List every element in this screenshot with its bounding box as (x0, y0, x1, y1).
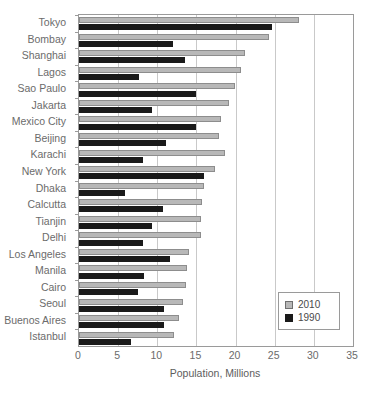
legend-swatch-1990-icon (285, 314, 293, 322)
bar-1990 (79, 91, 196, 97)
category-label: Calcutta (27, 196, 66, 213)
bar-1990 (79, 240, 143, 246)
x-tick-label: 10 (150, 349, 162, 361)
bar-2010 (79, 150, 225, 156)
category-label: Lagos (37, 64, 66, 81)
bar-1990 (79, 157, 143, 163)
bar-2010 (79, 282, 186, 288)
x-axis-tick-labels: 05101520253035 (78, 349, 352, 365)
category-axis-labels: TokyoBombayShanghaiLagosSao PauloJakarta… (0, 14, 70, 345)
bar-1990 (79, 306, 164, 312)
bar-2010 (79, 67, 241, 73)
category-label: Istanbul (29, 328, 66, 345)
bar-group (79, 32, 353, 49)
category-label: Mexico City (12, 113, 66, 130)
bar-group (79, 147, 353, 164)
category-label: Karachi (30, 146, 66, 163)
bar-1990 (79, 322, 164, 328)
bar-1990 (79, 289, 138, 295)
category-label: New York (22, 163, 66, 180)
category-label: Dhaka (36, 180, 66, 197)
population-bar-chart: TokyoBombayShanghaiLagosSao PauloJakarta… (0, 0, 374, 405)
bar-group (79, 131, 353, 148)
bar-group (79, 247, 353, 264)
x-axis-title: Population, Millions (78, 367, 352, 379)
bar-2010 (79, 133, 219, 139)
bar-group (79, 48, 353, 65)
bar-1990 (79, 223, 152, 229)
bar-2010 (79, 50, 245, 56)
bar-1990 (79, 173, 204, 179)
bar-2010 (79, 299, 183, 305)
bar-1990 (79, 41, 173, 47)
x-tick-label: 15 (190, 349, 202, 361)
bar-1990 (79, 256, 170, 262)
bar-group (79, 15, 353, 32)
category-label: Jakarta (32, 97, 66, 114)
category-label: Buenos Aires (4, 312, 66, 329)
bar-2010 (79, 199, 202, 205)
bar-2010 (79, 183, 204, 189)
bar-2010 (79, 166, 215, 172)
bar-1990 (79, 140, 166, 146)
bar-1990 (79, 273, 144, 279)
bar-group (79, 214, 353, 231)
x-tick-label: 5 (114, 349, 120, 361)
category-label: Tokyo (39, 14, 66, 31)
bar-2010 (79, 216, 201, 222)
bar-1990 (79, 74, 139, 80)
bar-1990 (79, 190, 125, 196)
bar-group (79, 114, 353, 131)
bar-2010 (79, 232, 201, 238)
bar-group (79, 329, 353, 346)
x-tick-label: 25 (268, 349, 280, 361)
bar-1990 (79, 339, 131, 345)
bar-group (79, 263, 353, 280)
bar-2010 (79, 116, 221, 122)
bar-2010 (79, 83, 235, 89)
x-tick-label: 30 (307, 349, 319, 361)
bar-group (79, 81, 353, 98)
category-label: Beijing (34, 130, 66, 147)
x-tick-label: 20 (229, 349, 241, 361)
bar-group (79, 98, 353, 115)
bar-2010 (79, 34, 269, 40)
x-tick-label: 35 (346, 349, 358, 361)
category-label: Cairo (41, 279, 66, 296)
bar-1990 (79, 57, 185, 63)
chart-legend: 2010 1990 (278, 292, 340, 330)
bar-2010 (79, 17, 299, 23)
category-label: Delhi (42, 229, 66, 246)
bar-1990 (79, 107, 152, 113)
legend-item-1990: 1990 (285, 311, 333, 324)
bar-2010 (79, 265, 187, 271)
category-label: Manila (35, 262, 66, 279)
category-label: Shanghai (22, 47, 66, 64)
bar-1990 (79, 24, 272, 30)
bar-1990 (79, 206, 163, 212)
category-label: Bombay (27, 31, 66, 48)
legend-swatch-2010-icon (285, 301, 293, 309)
bar-2010 (79, 315, 179, 321)
category-label: Sao Paulo (18, 80, 66, 97)
bar-group (79, 230, 353, 247)
category-label: Los Angeles (9, 246, 66, 263)
bar-group (79, 65, 353, 82)
legend-label-1990: 1990 (298, 312, 320, 323)
bar-2010 (79, 100, 229, 106)
bar-2010 (79, 332, 174, 338)
category-label: Tianjin (35, 213, 66, 230)
legend-item-2010: 2010 (285, 298, 333, 311)
legend-label-2010: 2010 (298, 299, 320, 310)
bar-group (79, 197, 353, 214)
bar-group (79, 164, 353, 181)
bar-group (79, 181, 353, 198)
bar-2010 (79, 249, 189, 255)
x-tick-label: 0 (75, 349, 81, 361)
category-label: Seoul (39, 295, 66, 312)
bar-1990 (79, 124, 196, 130)
